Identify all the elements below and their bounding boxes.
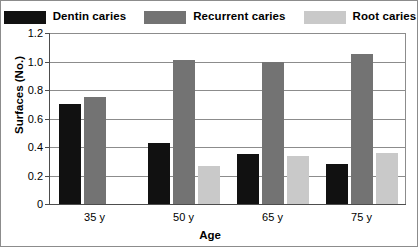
y-tick-label: 0.6 — [28, 113, 43, 125]
bar — [376, 153, 398, 204]
legend-entry: Recurrent caries — [144, 11, 285, 24]
bar — [173, 60, 195, 204]
legend-label: Recurrent caries — [193, 11, 285, 23]
legend-swatch — [4, 11, 46, 24]
y-tick-label: 1.2 — [28, 27, 43, 39]
bar-group: 50 y — [139, 33, 228, 204]
legend-swatch — [144, 11, 186, 24]
bar — [287, 156, 309, 204]
y-tick-label: 0.2 — [28, 170, 43, 182]
chart-legend: Dentin cariesRecurrent cariesRoot caries — [1, 7, 418, 27]
bar-group-bars — [50, 33, 139, 204]
x-axis-title: Age — [1, 229, 418, 241]
y-axis-title: Surfaces (No.) — [13, 30, 25, 160]
y-tick-label: 0 — [37, 198, 43, 210]
x-tick-label: 75 y — [317, 211, 406, 223]
bar — [84, 97, 106, 204]
y-tick-label: 1.0 — [28, 56, 43, 68]
legend-label: Root caries — [353, 11, 417, 23]
x-tick-label: 65 y — [228, 211, 317, 223]
legend-label: Dentin caries — [53, 11, 127, 23]
bar — [262, 62, 284, 205]
plot-area: 00.20.40.60.81.01.2 35 y50 y65 y75 y — [49, 33, 406, 205]
bar — [351, 54, 373, 204]
bar-group: 75 y — [317, 33, 406, 204]
bar-group: 65 y — [228, 33, 317, 204]
bar-group-bars — [317, 33, 406, 204]
x-tick-label: 35 y — [50, 211, 139, 223]
y-tick-label: 0.8 — [28, 84, 43, 96]
bar-group-bars — [228, 33, 317, 204]
bar-group-bars — [139, 33, 228, 204]
bar — [148, 143, 170, 204]
legend-entry: Root caries — [304, 11, 417, 24]
bar — [237, 154, 259, 204]
bar-group: 35 y — [50, 33, 139, 204]
plot-inner: 00.20.40.60.81.01.2 35 y50 y65 y75 y — [50, 33, 406, 204]
y-tick-mark — [45, 204, 50, 205]
bar — [326, 164, 348, 204]
y-tick-label: 0.4 — [28, 141, 43, 153]
bar — [198, 166, 220, 204]
bar — [59, 104, 81, 204]
legend-entry: Dentin caries — [4, 11, 127, 24]
x-tick-label: 50 y — [139, 211, 228, 223]
legend-swatch — [304, 11, 346, 24]
chart-figure: Dentin cariesRecurrent cariesRoot caries… — [0, 0, 418, 247]
bar-groups: 35 y50 y65 y75 y — [50, 33, 406, 204]
